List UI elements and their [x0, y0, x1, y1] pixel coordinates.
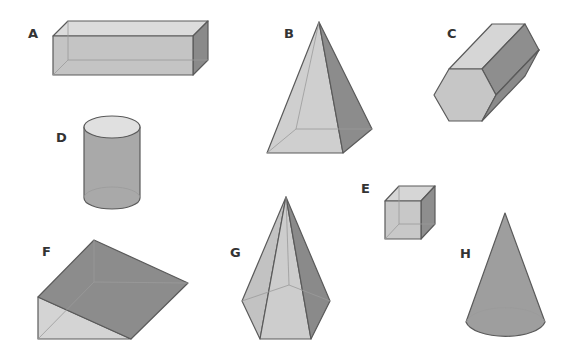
solid-shapes-figure: A B C D E F G H [0, 0, 570, 348]
label-b: B [284, 27, 294, 40]
label-g: G [230, 246, 241, 259]
shape-f-triangular-prism [38, 240, 188, 339]
shape-d-cylinder [84, 116, 140, 209]
label-d: D [56, 131, 67, 144]
shapes-canvas [0, 0, 570, 348]
shape-g-pentagonal-pyramid [242, 197, 330, 339]
label-c: C [447, 27, 457, 40]
label-h: H [460, 247, 471, 260]
shape-a-rectangular-prism [53, 21, 208, 75]
shape-h-cone [466, 213, 545, 336]
shape-b-square-pyramid [267, 22, 372, 153]
label-f: F [42, 245, 51, 258]
shape-e-cube [385, 186, 435, 239]
label-e: E [361, 182, 370, 195]
label-a: A [28, 27, 38, 40]
